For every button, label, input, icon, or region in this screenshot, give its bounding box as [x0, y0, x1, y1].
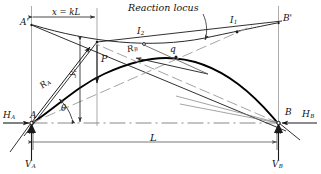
label-A: A	[30, 111, 37, 120]
RA-line-extension-below	[10, 123, 31, 152]
label-HA: HA	[3, 111, 15, 121]
node-I2	[143, 43, 146, 46]
line-B-to-load	[96, 44, 279, 123]
label-I2-sub: 2	[141, 30, 145, 36]
node-A	[30, 121, 33, 124]
label-VA: VA	[25, 160, 36, 170]
label-HA-base: H	[3, 110, 11, 120]
label-HB-base: H	[302, 109, 310, 119]
line-load-to-Bprime	[97, 21, 282, 42]
label-RB-sub: B	[133, 46, 138, 53]
label-VB: VB	[272, 160, 283, 170]
label-VA-base: V	[25, 159, 32, 169]
label-A-prime: A'	[20, 18, 29, 27]
label-VB-base: V	[272, 159, 279, 169]
reference-vertical-lines	[32, 6, 279, 126]
label-theta: θ	[61, 104, 66, 113]
node-q	[175, 56, 178, 59]
label-VB-sub: B	[279, 163, 283, 169]
line-pencil-at-B	[176, 96, 279, 123]
label-B: B	[285, 108, 292, 117]
arch-reaction-locus-figure: A' B' x = kL Reaction locus I2 I1 q RB R…	[0, 0, 321, 174]
node-I1	[236, 31, 239, 34]
label-q: q	[170, 45, 176, 54]
label-HA-sub: A	[11, 114, 15, 120]
label-P-load: P	[101, 54, 107, 64]
label-HB: HB	[302, 110, 314, 120]
label-VA-sub: A	[32, 163, 36, 169]
label-I2: I2	[137, 27, 144, 37]
label-HB-sub: B	[310, 113, 314, 119]
label-L-span: L	[150, 133, 157, 143]
node-load-point	[96, 41, 99, 44]
label-B-prime: B'	[283, 14, 292, 23]
label-I1: I1	[230, 16, 237, 26]
label-x-equals-kL: x = kL	[52, 8, 80, 17]
node-B-prime	[277, 22, 279, 24]
node-A-prime	[30, 24, 32, 26]
node-B	[277, 121, 280, 124]
reaction-locus-leader	[203, 14, 207, 40]
label-I1-sub: 1	[234, 19, 238, 25]
label-reaction-locus: Reaction locus	[128, 3, 199, 13]
